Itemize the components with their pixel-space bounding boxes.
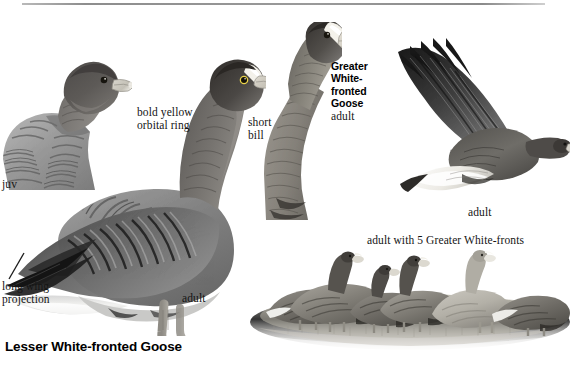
greater-white-fronted-goose-heading: GreaterWhite-frontedGoose — [331, 60, 368, 110]
long-wing-line1: long wing — [2, 280, 49, 292]
label-greater-adult: adult — [331, 110, 355, 123]
adult-lesser-white-fronted-goose-flying — [390, 34, 570, 206]
label-adult-flying: adult — [468, 206, 492, 219]
greater-line1: Greater — [331, 60, 368, 72]
greater-white-fronted-goose-head — [262, 22, 342, 220]
label-bold-yellow-orbital-ring: bold yelloworbital ring — [137, 106, 193, 132]
greater-line4: Goose — [331, 97, 363, 109]
label-adult-with-greater-white-fronts: adult with 5 Greater White-fronts — [367, 234, 524, 247]
greater-line3: fronted — [331, 85, 366, 97]
top-divider-rule — [22, 3, 545, 5]
long-wing-projection-leader — [4, 252, 30, 282]
greater-line2: White- — [331, 72, 362, 84]
long-wing-line2: projection — [2, 293, 50, 305]
flock-lesser-with-greater-white-fronts — [244, 250, 577, 362]
orbital-ring-line2: orbital ring — [137, 119, 190, 131]
field-guide-plate: juv — [0, 0, 577, 368]
page-title: Lesser White-fronted Goose — [5, 339, 182, 354]
label-long-wing-projection: long wingprojection — [2, 280, 50, 306]
orbital-ring-line1: bold yellow — [137, 106, 193, 118]
label-adult-standing: adult — [182, 292, 206, 305]
